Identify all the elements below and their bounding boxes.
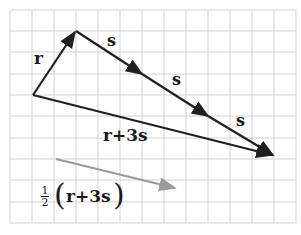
grid <box>10 10 296 223</box>
close-paren: ) <box>113 180 125 210</box>
label-s-2: s <box>172 70 181 89</box>
label-r: r <box>34 48 43 68</box>
open-paren: ( <box>54 180 66 210</box>
fraction-numerator: 1 <box>42 185 49 196</box>
label-r-plus-3s: r+3s <box>103 125 148 145</box>
label-s-1: s <box>107 31 116 50</box>
label-s-3: s <box>236 111 245 130</box>
fraction-one-half: 1 2 <box>41 185 49 208</box>
fraction-denominator: 2 <box>42 197 49 208</box>
half-body: r+3s <box>66 186 111 206</box>
